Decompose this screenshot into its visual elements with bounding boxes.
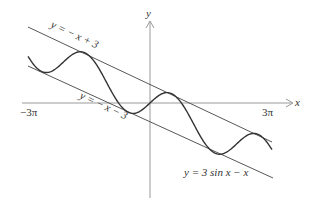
lower-line-label: y = − x − 3 bbox=[77, 89, 130, 122]
tick-right: 3π bbox=[262, 106, 274, 118]
upper-line-label: y = − x + 3 bbox=[48, 18, 101, 51]
tick-left: −3π bbox=[20, 106, 38, 118]
curve-label: y = 3 sin x − x bbox=[183, 166, 248, 178]
y-axis-label: y bbox=[145, 7, 151, 19]
x-axis-label: x bbox=[294, 96, 300, 108]
graph: y x −3π 3π y = − x + 3 y = − x − 3 y = 3… bbox=[0, 0, 316, 204]
